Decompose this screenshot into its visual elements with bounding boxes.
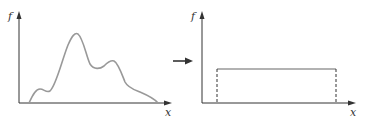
right-arrow-icon — [185, 58, 193, 65]
right-x-arrowhead-icon — [348, 101, 356, 106]
left-y-arrowhead-icon — [17, 11, 22, 19]
transform-arrow — [173, 58, 193, 65]
left-x-label: x — [165, 106, 172, 119]
right-y-arrowhead-icon — [200, 11, 205, 19]
right-x-label: x — [350, 106, 357, 119]
right-y-label: f — [190, 10, 197, 23]
right-plot: f x — [190, 10, 357, 119]
left-density-curve — [29, 33, 158, 103]
left-y-label: f — [7, 10, 14, 23]
left-plot: f x — [7, 10, 172, 119]
left-x-arrowhead-icon — [164, 101, 172, 106]
